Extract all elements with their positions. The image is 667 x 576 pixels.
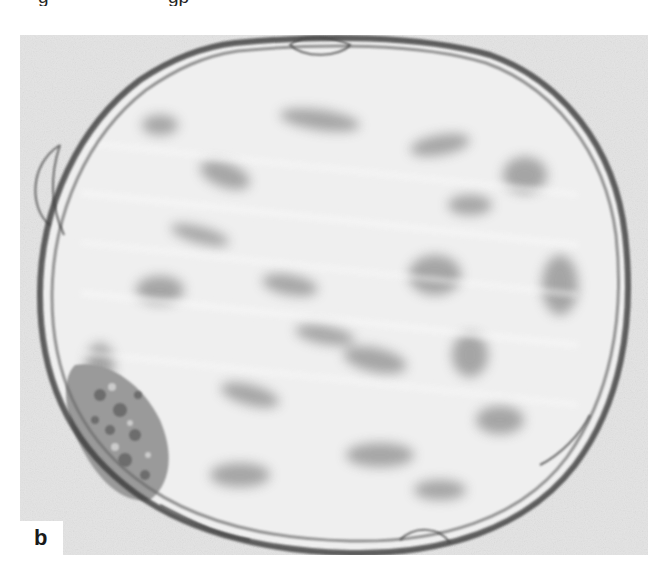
caption-fragment-left: g	[38, 0, 49, 6]
panel-label: b	[34, 525, 47, 551]
caption-fragment-right: gp	[168, 0, 189, 6]
panel-label-box: b	[20, 521, 63, 555]
micrograph-panel	[20, 35, 648, 555]
blastocyst-image	[20, 35, 648, 555]
cut-off-caption: g gp	[0, 0, 667, 6]
